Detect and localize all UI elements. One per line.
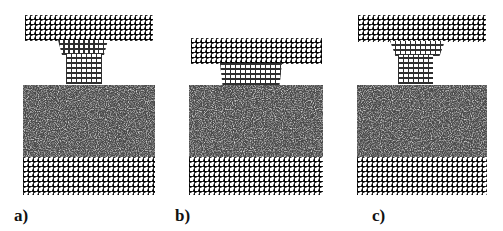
panel-b: b)	[170, 0, 340, 231]
upper-crystal-slab	[25, 15, 153, 41]
lower-crystal-slab	[23, 157, 155, 195]
lower-crystal-slab	[189, 157, 323, 195]
amorphous-liquid-layer	[357, 85, 487, 157]
panel-label-a: a)	[14, 206, 28, 226]
amorphous-liquid-layer	[189, 85, 323, 157]
liquid-texture	[23, 85, 155, 157]
crystal-tip-lower	[398, 55, 433, 84]
panel-label-c: c)	[372, 206, 385, 226]
crystal-tip-lower	[66, 54, 102, 84]
crystal-tip	[390, 41, 445, 56]
panel-label-b: b)	[175, 206, 190, 226]
panel-a: a)	[0, 0, 170, 231]
upper-crystal-slab	[191, 38, 322, 64]
upper-crystal-slab	[358, 15, 486, 42]
crystal-tip	[58, 40, 108, 55]
panel-c: c)	[335, 0, 503, 231]
liquid-texture	[189, 85, 323, 157]
lower-crystal-slab	[357, 157, 487, 195]
crystal-tip	[220, 63, 282, 85]
liquid-texture	[357, 85, 487, 157]
amorphous-liquid-layer	[23, 85, 155, 157]
